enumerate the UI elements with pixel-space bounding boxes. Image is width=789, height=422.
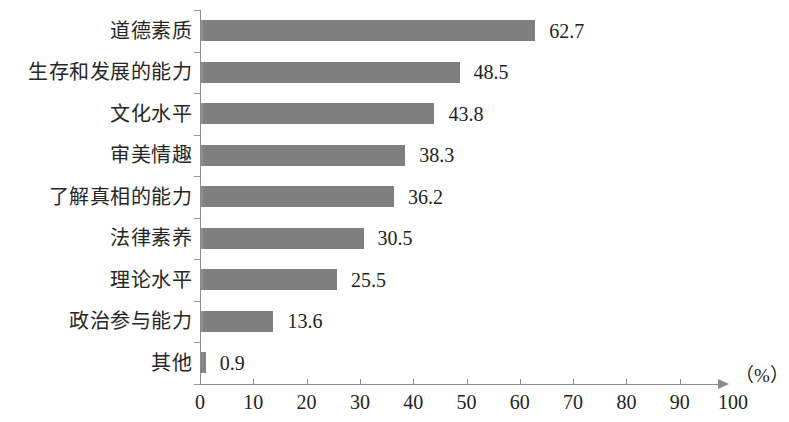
category-label: 其他 [0,353,192,373]
bar-container: 36.2 [201,176,443,218]
category-label: 了解真相的能力 [0,187,192,207]
y-axis-tick [194,301,201,302]
x-axis-tick [413,379,414,385]
table-row: 了解真相的能力 36.2 [0,176,789,218]
value-label: 38.3 [419,145,454,165]
table-row: 道德素质 62.7 [0,10,789,52]
x-axis-tick-label: 60 [510,392,530,412]
axis-unit-label: （%） [735,366,789,385]
x-axis-tick [520,379,521,385]
x-axis-tick-label: 0 [195,392,205,412]
x-axis-tick [253,379,254,385]
y-axis-tick [194,218,201,219]
x-axis-tick-label: 40 [403,392,423,412]
category-label: 文化水平 [0,104,192,124]
bar [201,145,405,166]
bar-container: 0.9 [201,342,245,384]
table-row: 法律素养 30.5 [0,218,789,260]
x-axis-tick-label: 50 [457,392,477,412]
bar [201,269,337,290]
x-axis-tick [360,379,361,385]
bar [201,228,364,249]
table-row: 理论水平 25.5 [0,259,789,301]
value-label: 30.5 [378,228,413,248]
category-label: 生存和发展的能力 [0,62,192,82]
y-axis-tick [194,259,201,260]
x-axis-tick-label: 30 [350,392,370,412]
bar-container: 62.7 [201,10,584,52]
table-row: 其他 0.9 [0,342,789,384]
x-axis-tick [307,379,308,385]
bar [201,103,434,124]
x-axis-tick [626,379,627,385]
x-axis-tick [200,379,201,385]
bar [201,62,460,83]
x-axis-tick-label: 20 [297,392,317,412]
bar [201,20,535,41]
bar-chart: 道德素质 62.7 生存和发展的能力 48.5 文化水平 43.8 审美情趣 [0,0,789,422]
value-label: 0.9 [220,353,245,373]
x-axis-line [200,384,722,385]
bar [201,352,206,373]
value-label: 43.8 [448,104,483,124]
table-row: 生存和发展的能力 48.5 [0,52,789,94]
x-axis-arrow-icon [718,379,729,389]
x-axis-tick [680,379,681,385]
y-axis-tick [194,93,201,94]
bar-container: 43.8 [201,93,483,135]
y-axis-tick [194,10,201,11]
x-axis-tick-label: 100 [718,392,748,412]
bar-container: 13.6 [201,301,322,343]
x-axis-tick-label: 70 [563,392,583,412]
value-label: 13.6 [287,311,322,331]
x-axis-tick [467,379,468,385]
value-label: 48.5 [474,62,509,82]
category-label: 政治参与能力 [0,311,192,331]
value-label: 25.5 [351,270,386,290]
bar [201,186,394,207]
x-axis-tick-label: 10 [243,392,263,412]
category-label: 理论水平 [0,270,192,290]
table-row: 审美情趣 38.3 [0,135,789,177]
y-axis-tick [194,135,201,136]
y-axis-tick [194,342,201,343]
category-label: 法律素养 [0,228,192,248]
y-axis-tick [194,52,201,53]
value-label: 62.7 [549,21,584,41]
x-axis-tick-label: 80 [616,392,636,412]
category-label: 审美情趣 [0,145,192,165]
table-row: 政治参与能力 13.6 [0,301,789,343]
bar-container: 25.5 [201,259,386,301]
y-axis-tick [194,176,201,177]
category-label: 道德素质 [0,21,192,41]
bar-container: 48.5 [201,52,509,94]
bar-rows: 道德素质 62.7 生存和发展的能力 48.5 文化水平 43.8 审美情趣 [0,10,789,384]
x-axis-tick [573,379,574,385]
bar [201,311,273,332]
value-label: 36.2 [408,187,443,207]
bar-container: 38.3 [201,135,454,177]
x-axis-tick-label: 90 [670,392,690,412]
bar-container: 30.5 [201,218,413,260]
table-row: 文化水平 43.8 [0,93,789,135]
